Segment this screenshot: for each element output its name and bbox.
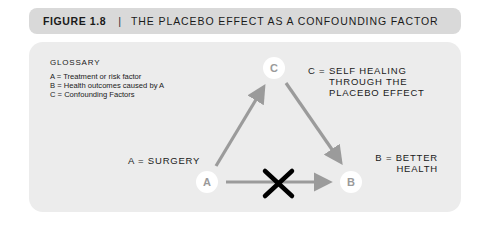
node-b: B [340,171,362,193]
node-c-letter: C [270,62,278,74]
node-b-letter: B [347,176,355,188]
arrow-a-to-c [216,88,263,166]
node-c: C [263,57,285,79]
node-a-label: A = SURGERY [128,155,200,166]
node-c-label: C = SELF HEALING THROUGH THE PLACEBO EFF… [308,65,425,98]
node-c-label-line2: THROUGH THE [308,76,425,87]
node-a-letter: A [203,176,211,188]
node-c-label-line3: PLACEBO EFFECT [308,87,425,98]
node-b-label-line2: HEALTH [363,163,438,174]
causal-diagram: A B C [0,0,487,226]
node-a: A [196,171,218,193]
node-c-label-line1: C = SELF HEALING [308,65,425,76]
node-b-label-line1: B = BETTER [363,152,438,163]
node-b-label: B = BETTER HEALTH [363,152,438,174]
